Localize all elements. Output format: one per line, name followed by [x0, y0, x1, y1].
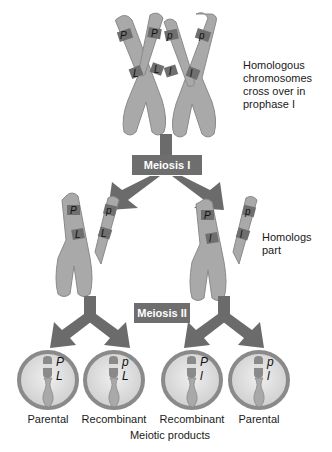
svg-text:P: P: [70, 205, 77, 216]
meiosis2-arrows-left: [50, 296, 130, 348]
svg-text:p: p: [166, 30, 173, 41]
svg-text:p: p: [121, 355, 129, 369]
product-cell-4: [230, 352, 288, 408]
product-label-4: Parental: [219, 413, 299, 425]
product-cell-3: [163, 352, 221, 408]
meiosis2-arrows-right: [184, 296, 264, 348]
svg-text:L: L: [133, 68, 139, 79]
product-label-2: Recombinant: [74, 413, 154, 425]
svg-text:L: L: [56, 369, 63, 383]
meiotic-products-caption: Meiotic products: [120, 429, 220, 442]
svg-text:p: p: [266, 355, 274, 369]
svg-text:l: l: [267, 369, 270, 383]
svg-text:P: P: [200, 355, 208, 369]
arrow-stem-1: [160, 134, 172, 156]
svg-text:L: L: [75, 229, 81, 240]
svg-text:p: p: [198, 30, 205, 41]
svg-text:l: l: [200, 369, 203, 383]
svg-text:L: L: [122, 369, 129, 383]
product-cell-1: [19, 352, 77, 408]
product-cell-2: [85, 352, 143, 408]
meiosis2-label: Meiosis II: [134, 303, 190, 323]
svg-text:P: P: [204, 210, 211, 221]
svg-text:P: P: [151, 28, 158, 39]
meiosis1-label: Meiosis I: [132, 155, 202, 175]
svg-text:p: p: [105, 205, 112, 216]
svg-text:L: L: [101, 228, 107, 239]
svg-text:p: p: [244, 206, 251, 217]
svg-text:P: P: [56, 355, 64, 369]
svg-text:P: P: [120, 30, 127, 41]
homologs-part-annotation: Homologs part: [262, 231, 312, 257]
prophase-annotation: Homologous chromosomes cross over in pro…: [243, 59, 312, 111]
svg-text:L: L: [154, 64, 160, 75]
